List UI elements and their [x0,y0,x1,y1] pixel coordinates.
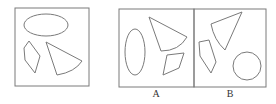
question-hexagon [24,41,40,73]
option-a-sector [149,17,187,51]
option-a-quadrilateral [163,53,184,75]
option-a-label: A [146,88,166,99]
option-b-sector [211,12,242,50]
option-b-frame [194,9,266,87]
option-b-label: B [220,88,240,99]
option-b-quadrilateral [199,40,216,73]
question-ellipse [24,14,68,36]
option-b-circle [233,52,261,80]
question-sector [46,42,82,75]
option-a-ellipse [125,29,145,75]
